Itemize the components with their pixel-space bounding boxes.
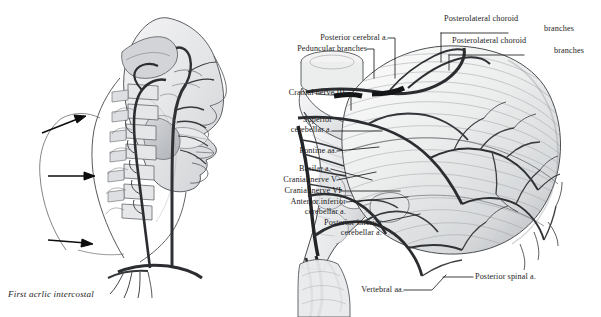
label-pica-line1: Posterior inferior [290, 218, 382, 228]
label-superior-cerebellar-a-line2: cerebellar a. [256, 125, 332, 135]
label-vertebral-aa: Vertebral aa. [334, 285, 404, 295]
anatomy-plate: Posterior cerebral a. Peduncular branche… [0, 0, 601, 317]
label-posterolateral-choroid-branches-2: Posterolateral choroid [452, 36, 584, 46]
label-posterolateral-choroid-branches-2-line2: branches [452, 46, 584, 56]
figure-lateral-head-neck [0, 0, 268, 317]
label-basilar-a: Basilar a. [266, 164, 331, 174]
label-aica-line2: cerebellar a. [262, 207, 346, 217]
label-peduncular-branches: Peduncular branches [262, 44, 367, 54]
label-posterolateral-choroid-branches-1: Posterolateral choroid [444, 14, 574, 24]
label-posterolateral-choroid-branches-1-line2: branches [444, 24, 574, 34]
label-aica-line1: Anterior.inferior [262, 197, 346, 207]
label-superior-cerebellar-a-line1: Superior [256, 115, 332, 125]
label-pontine-aa: Pontine aa. [264, 146, 337, 156]
figure-caption: First acrlic intercostal [8, 289, 94, 299]
indicator-arrow [42, 115, 95, 247]
label-posterior-cerebral-a: Posterior cerebral a. [276, 33, 388, 43]
label-pica-line2: cerebellar a. [290, 228, 382, 238]
label-posterior-spinal-a: Posterior spinal a. [475, 272, 585, 282]
label-cranial-nerve-iii: Cranial nerve III [256, 88, 345, 98]
label-cranial-nerve-v: Cranial nerve V [258, 175, 337, 185]
label-cranial-nerve-vi: Cranial nerve VI [258, 186, 341, 196]
